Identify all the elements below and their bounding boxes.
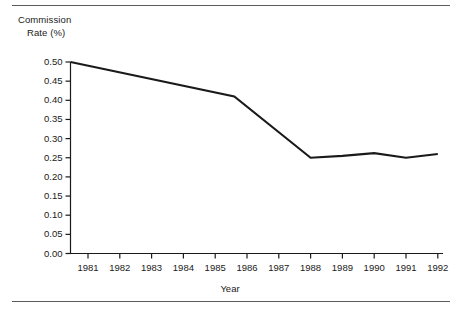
y-axis-tick-label: 0.25 <box>29 153 63 163</box>
figure-container: Commission Rate (%) 0.000.050.100.150.20… <box>0 0 460 311</box>
axis-lines <box>70 62 443 254</box>
y-axis-tick-label: 0.10 <box>29 210 63 220</box>
x-axis-ticks <box>88 254 438 259</box>
y-axis-tick-label: 0.05 <box>29 229 63 239</box>
y-axis-tick-label: 0.40 <box>29 95 63 105</box>
y-axis-tick-label: 0.30 <box>29 134 63 144</box>
y-axis-tick-label: 0.00 <box>29 249 63 259</box>
y-axis-tick-label: 0.20 <box>29 172 63 182</box>
x-axis-title: Year <box>0 283 460 294</box>
y-axis-tick-label: 0.35 <box>29 114 63 124</box>
y-axis-tick-label: 0.45 <box>29 76 63 86</box>
x-axis-tick-label: 1992 <box>418 263 458 273</box>
data-series-line <box>71 62 438 158</box>
y-axis-tick-label: 0.15 <box>29 191 63 201</box>
y-axis-tick-label: 0.50 <box>29 57 63 67</box>
y-axis-ticks <box>66 62 71 254</box>
